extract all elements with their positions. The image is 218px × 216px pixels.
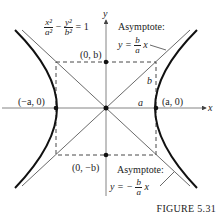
asymptote-upper-equation: y = ba x [118, 36, 148, 55]
hyperbola-figure [0, 0, 218, 216]
label-bottom-point: (0, −b) [72, 163, 99, 173]
y-axis-label: y [103, 9, 107, 19]
asymptote-lower-equation: y = − ba x [110, 178, 149, 197]
label-semi-axis-b: b [147, 76, 152, 86]
hyperbola-left-branch [15, 30, 57, 188]
point-bottom [104, 153, 109, 158]
point-top [104, 60, 109, 65]
label-right-vertex: (a, 0) [162, 97, 183, 107]
x-axis-label: x [208, 103, 212, 113]
figure-caption: FIGURE 5.31 [157, 203, 216, 214]
hyperbola-equation: x²a² − y²b² = 1 [44, 18, 89, 37]
label-left-vertex: (−a, 0) [18, 97, 45, 107]
point-right-vertex [154, 106, 159, 111]
point-center [104, 106, 109, 111]
point-left-vertex [54, 106, 59, 111]
label-semi-axis-a: a [138, 98, 143, 108]
asymptote-upper-leader [150, 45, 166, 50]
label-top-point: (0, b) [80, 50, 102, 60]
asymptote-lower-title: Asymptote: [117, 165, 164, 175]
asymptote-upper-title: Asymptote: [118, 22, 165, 32]
